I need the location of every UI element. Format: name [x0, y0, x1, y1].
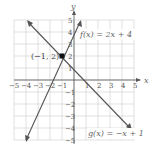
y-axis-label: y [70, 2, 76, 11]
intersection-label: (−1, 2) [31, 52, 59, 61]
intersection-point [60, 54, 65, 59]
x-tick-label: 4 [121, 82, 126, 90]
x-tick-label: 5 [133, 82, 137, 90]
x-tick-label: 3 [109, 82, 113, 90]
y-tick-label: −2 [65, 101, 75, 109]
x-axis-label: x [144, 76, 149, 85]
y-tick-label: −3 [65, 113, 75, 121]
x-tick-label: 2 [97, 82, 101, 90]
x-tick-label: −5 [9, 82, 19, 90]
f-label: f(x) = 2x + 4 [79, 30, 132, 39]
line-f-arrow-icon [25, 135, 30, 142]
function-graph: x y −5−4−3−2−11234554321−1−2−3−4−5 (−1, … [0, 0, 155, 150]
y-tick-label: −4 [65, 125, 76, 133]
y-tick-label: 5 [68, 17, 72, 25]
line-f [26, 22, 80, 140]
y-tick-label: −5 [65, 137, 75, 145]
y-tick-label: −1 [65, 89, 75, 97]
y-tick-label: 4 [68, 29, 73, 37]
x-tick-label: −3 [33, 82, 43, 90]
y-tick-label: 2 [68, 53, 72, 61]
x-tick-label: −4 [21, 82, 32, 90]
g-label: g(x) = −x + 1 [88, 129, 144, 138]
